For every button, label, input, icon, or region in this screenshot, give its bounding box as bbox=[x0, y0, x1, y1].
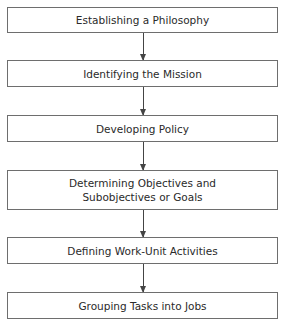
step-label: Developing Policy bbox=[96, 122, 189, 136]
step-label-line2: Subobjectives or Goals bbox=[82, 190, 202, 204]
arrow-down-icon bbox=[143, 210, 144, 237]
arrow-down-icon bbox=[143, 33, 144, 60]
step-developing-policy: Developing Policy bbox=[7, 115, 278, 142]
arrow-down-icon bbox=[143, 87, 144, 115]
arrow-down-icon bbox=[143, 142, 144, 170]
step-identifying-mission: Identifying the Mission bbox=[7, 60, 278, 87]
step-label: Defining Work-Unit Activities bbox=[67, 244, 217, 258]
step-defining-work-unit-activities: Defining Work-Unit Activities bbox=[7, 237, 278, 264]
step-grouping-tasks: Grouping Tasks into Jobs bbox=[7, 292, 278, 319]
arrow-down-icon bbox=[143, 264, 144, 292]
step-determining-objectives: Determining Objectives and Subobjectives… bbox=[7, 170, 278, 210]
step-label: Establishing a Philosophy bbox=[76, 13, 209, 27]
step-label: Grouping Tasks into Jobs bbox=[78, 299, 206, 313]
step-establishing-philosophy: Establishing a Philosophy bbox=[7, 7, 278, 33]
step-label-line1: Determining Objectives and bbox=[69, 176, 216, 190]
step-label: Identifying the Mission bbox=[83, 67, 202, 81]
